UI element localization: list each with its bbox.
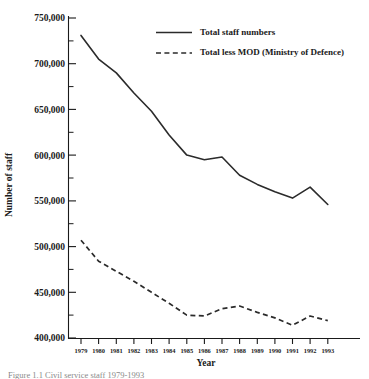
y-axis-minor-ticks: [69, 41, 74, 315]
x-tick-label: 1985: [180, 347, 193, 354]
x-tick-label: 1980: [92, 347, 105, 354]
x-tick-label: 1987: [216, 347, 230, 354]
y-axis-title: Number of staff: [4, 152, 14, 217]
line-chart: 750,000 700,000 650,000 600,000 550,000 …: [0, 0, 369, 379]
y-tick-label: 550,000: [34, 196, 65, 206]
y-tick-label: 700,000: [34, 59, 65, 69]
figure-caption: Figure 1.1 Civil service staff 1979-1993: [8, 371, 238, 379]
x-tick-label: 1983: [145, 347, 158, 354]
series-line-total-less-mod: [81, 240, 328, 325]
x-axis-title: Year: [197, 358, 217, 368]
x-tick-label: 1988: [233, 347, 246, 354]
x-axis-ticks: [81, 339, 328, 345]
x-tick-label: 1982: [128, 347, 141, 354]
legend-label-total-staff: Total staff numbers: [200, 27, 276, 37]
x-tick-label: 1979: [75, 347, 88, 354]
y-tick-label: 600,000: [34, 151, 65, 161]
y-tick-label: 400,000: [34, 333, 65, 343]
series-line-total-staff: [81, 35, 328, 204]
x-tick-label: 1993: [321, 347, 334, 354]
chart-legend: Total staff numbers Total less MOD (Mini…: [156, 27, 344, 58]
x-tick-label: 1992: [304, 347, 317, 354]
x-tick-label: 1984: [163, 347, 177, 354]
y-tick-label: 450,000: [34, 288, 65, 298]
y-tick-label: 650,000: [34, 105, 65, 115]
legend-label-total-less-mod: Total less MOD (Ministry of Defence): [200, 47, 344, 57]
x-axis-tick-labels: 1979 1980 1981 1982 1983 1984 1985 1986 …: [75, 347, 335, 354]
y-axis-tick-labels: 750,000 700,000 650,000 600,000 550,000 …: [34, 13, 65, 343]
x-tick-label: 1990: [269, 347, 282, 354]
x-tick-label: 1989: [251, 347, 264, 354]
x-tick-label: 1981: [110, 347, 123, 354]
figure-container: 750,000 700,000 650,000 600,000 550,000 …: [0, 0, 369, 379]
y-tick-label: 750,000: [34, 13, 65, 23]
y-tick-label: 500,000: [34, 242, 65, 252]
x-tick-label: 1986: [198, 347, 212, 354]
x-tick-label: 1991: [286, 347, 299, 354]
